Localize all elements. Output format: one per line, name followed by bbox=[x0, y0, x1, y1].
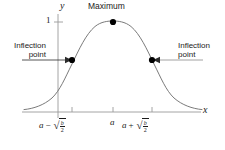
fraction-left: b 2 bbox=[60, 120, 65, 133]
plot-canvas bbox=[0, 0, 225, 150]
sqrt-icon-left: √ b 2 bbox=[54, 118, 66, 133]
x-tick-left-operator: − bbox=[46, 120, 51, 130]
gaussian-curve bbox=[24, 21, 202, 110]
x-tick-right-operator: + bbox=[129, 120, 134, 130]
y-axis-label: y bbox=[60, 1, 64, 10]
point-inflection-left bbox=[69, 57, 75, 63]
x-tick-left-base: a bbox=[39, 120, 44, 130]
x-axis-label: x bbox=[203, 105, 207, 114]
x-tick-label-right: a + √ b 2 bbox=[122, 118, 149, 133]
inflection-left-line2: point bbox=[29, 50, 46, 59]
fraction-left-denominator: 2 bbox=[60, 127, 65, 133]
inflection-point-label-left: Inflection point bbox=[2, 41, 46, 59]
sqrt-icon-right: √ b 2 bbox=[137, 118, 149, 133]
inflection-point-label-right: Inflection point bbox=[178, 41, 224, 59]
x-tick-label-left: a − √ b 2 bbox=[39, 118, 66, 133]
inflection-left-line1: Inflection bbox=[14, 41, 46, 50]
fraction-right: b 2 bbox=[143, 120, 148, 133]
maximum-label: Maximum bbox=[88, 2, 125, 11]
fraction-right-denominator: 2 bbox=[143, 127, 148, 133]
inflection-right-line1: Inflection bbox=[178, 41, 210, 50]
x-tick-right-base: a bbox=[122, 120, 127, 130]
inflection-right-line2: point bbox=[178, 50, 195, 59]
radicand-right: b 2 bbox=[142, 118, 149, 133]
point-inflection-right bbox=[149, 57, 155, 63]
radicand-left: b 2 bbox=[59, 118, 66, 133]
x-tick-label-center: a bbox=[110, 118, 115, 127]
bell-curve-figure: y x 1 Maximum Inflection point Inflectio… bbox=[0, 0, 225, 150]
y-axis-tick-label-one: 1 bbox=[46, 16, 51, 25]
point-maximum bbox=[110, 19, 116, 25]
